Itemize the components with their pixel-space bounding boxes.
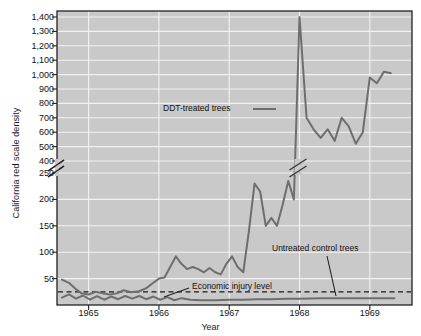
annotation-economic-injury-level: Economic injury level (192, 281, 272, 291)
chart-figure: California red scale density Year 501001… (0, 0, 421, 336)
annotation-ddt-treated-trees: DDT-treated trees (163, 103, 231, 113)
annotation-untreated-control-trees: Untreated control trees (272, 243, 358, 253)
